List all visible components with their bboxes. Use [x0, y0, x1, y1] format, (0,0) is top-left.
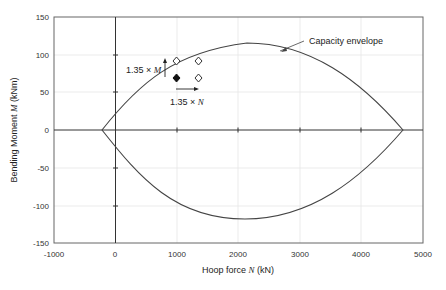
marker-open-diamond — [173, 57, 180, 65]
svg-text:100: 100 — [36, 51, 50, 60]
svg-text:4000: 4000 — [352, 250, 370, 259]
moment-factor-label: 1.35 × M — [126, 65, 162, 75]
svg-text:-1000: -1000 — [44, 250, 65, 259]
svg-text:150: 150 — [36, 13, 50, 22]
chart-canvas: Capacity envelope 1.35 × M 1.35 × N 150 … — [0, 0, 446, 290]
svg-text:-150: -150 — [33, 239, 50, 248]
marker-open-diamond — [195, 57, 202, 65]
y-tick-labels: 150 100 50 0 -50 -100 -150 — [33, 13, 50, 248]
moment-factor-arrowhead — [163, 58, 167, 63]
svg-text:2000: 2000 — [229, 250, 247, 259]
marker-filled-diamond — [173, 74, 180, 82]
svg-text:0: 0 — [45, 126, 50, 135]
force-factor-arrowhead — [194, 87, 199, 91]
force-factor-label: 1.35 × N — [170, 97, 205, 107]
svg-text:-50: -50 — [37, 164, 49, 173]
svg-text:0: 0 — [113, 250, 118, 259]
svg-text:5000: 5000 — [414, 250, 432, 259]
y-axis-title: Bending Moment M (kNm) — [9, 77, 19, 182]
marker-open-diamond — [195, 74, 202, 82]
svg-text:50: 50 — [40, 88, 49, 97]
envelope-label: Capacity envelope — [309, 36, 383, 46]
svg-text:1000: 1000 — [168, 250, 186, 259]
x-tick-labels: -1000 0 1000 2000 3000 4000 5000 — [44, 250, 433, 259]
svg-text:-100: -100 — [33, 202, 50, 211]
x-axis-title: Hoop force N (kN) — [202, 265, 274, 275]
svg-text:3000: 3000 — [291, 250, 309, 259]
